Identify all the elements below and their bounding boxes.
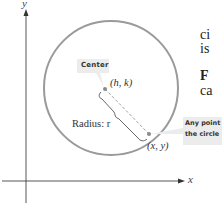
point-callout-label-2: the circle — [185, 130, 219, 138]
point-callout-label-1: Any point on — [185, 119, 222, 127]
x-axis — [2, 179, 185, 184]
y-axis — [24, 9, 29, 203]
x-axis-label: x — [188, 173, 193, 185]
center-point-label: (h, k) — [110, 77, 132, 88]
radius-label: Radius: r — [72, 118, 110, 129]
side-text-2: is — [200, 41, 209, 57]
radius-brace — [99, 92, 147, 141]
center-point — [103, 87, 107, 91]
x-axis-arrow-icon — [178, 179, 185, 184]
side-text-3: F — [200, 68, 209, 84]
center-callout-label: Center — [81, 61, 109, 69]
point-label: (x, y) — [147, 140, 169, 151]
y-axis-label: y — [22, 0, 27, 9]
y-axis-arrow-icon — [24, 9, 29, 16]
circle — [44, 21, 178, 155]
side-text-4: ca — [200, 83, 212, 99]
